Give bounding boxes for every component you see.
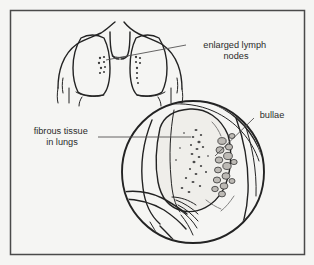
label-fibrous-tissue-line2: in lungs [46,137,78,147]
diagram-canvas: enlarged lymph nodes fibrous tissue in l… [0,0,314,265]
label-bullae-line1: bullae [260,110,285,120]
label-bullae: bullae [260,110,285,120]
label-lymph-nodes-line2: nodes [223,51,248,61]
label-fibrous-tissue-line1: fibrous tissue [34,126,88,136]
label-lymph-nodes-line1: enlarged lymph [203,40,266,50]
lung-pathology-figure: enlarged lymph nodes fibrous tissue in l… [0,0,314,265]
